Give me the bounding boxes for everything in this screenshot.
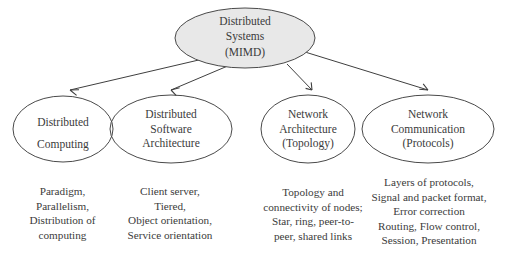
node-distributed-software-architecture — [110, 95, 232, 163]
node-distributed-systems-mimd — [175, 8, 315, 68]
diagram-canvas: Distributed Systems (MIMD) Distributed C… — [0, 0, 513, 263]
connector-to-distributed-software-architecture — [171, 65, 230, 90]
connector-to-network-architecture — [287, 64, 312, 90]
caption-distributed-software-architecture: Client server, Tiered, Object orientatio… — [110, 184, 230, 242]
node-network-architecture-topology — [261, 95, 355, 163]
arrowhead-network-communication — [419, 84, 428, 90]
connector-to-network-communication — [305, 52, 428, 90]
caption-network-communication-protocols: Layers of protocols, Signal and packet f… — [358, 175, 500, 248]
node-distributed-computing — [13, 96, 113, 162]
arrowhead-distributed-computing — [70, 90, 79, 96]
node-network-communication-protocols — [362, 95, 494, 163]
caption-distributed-computing: Paradigm, Parallelism, Distribution of c… — [6, 184, 119, 242]
